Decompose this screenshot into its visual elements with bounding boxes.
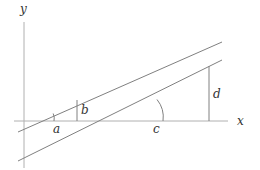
label-c: c <box>153 122 160 136</box>
y-axis-label: y <box>19 2 27 16</box>
upper-line <box>18 42 222 132</box>
angle-arc-c <box>157 100 163 122</box>
x-axis-label: x <box>237 114 244 128</box>
diagram-canvas: y x a b c d <box>0 0 260 170</box>
lower-line <box>18 60 222 161</box>
angle-arc-a <box>53 114 54 122</box>
label-a: a <box>53 122 60 136</box>
label-b: b <box>81 103 89 117</box>
label-d: d <box>213 87 221 101</box>
